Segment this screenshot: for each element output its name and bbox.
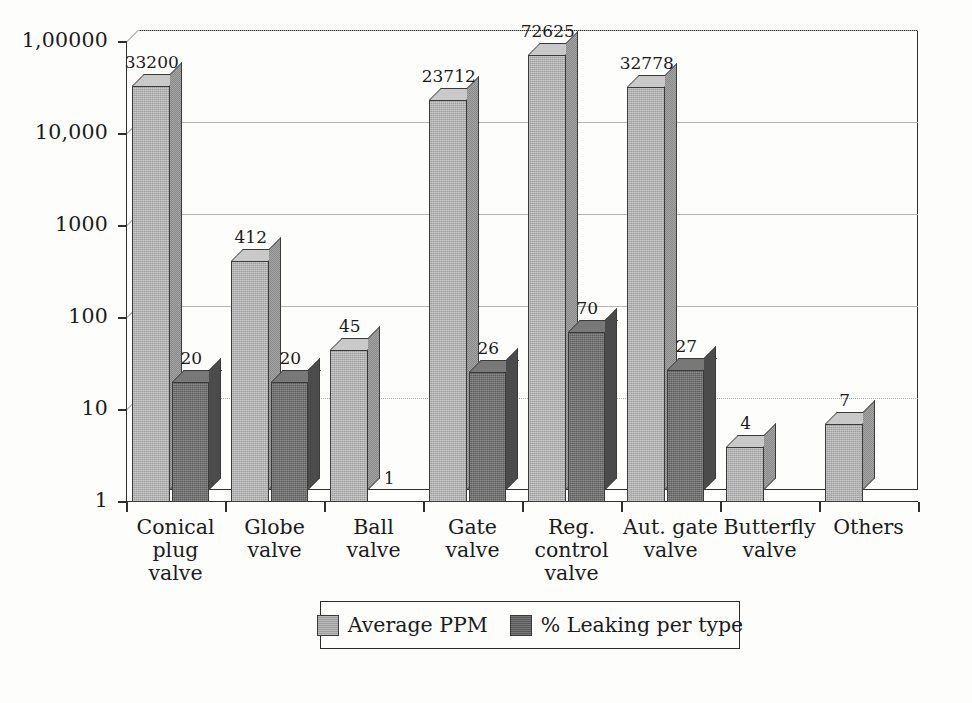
y-axis-tick bbox=[118, 225, 127, 227]
bar-average-ppm bbox=[231, 261, 269, 502]
legend-label: Average PPM bbox=[348, 613, 488, 637]
bar-value-label: 7 bbox=[809, 390, 881, 410]
bar-front-face bbox=[726, 447, 764, 502]
x-axis-category-label: Others bbox=[805, 516, 932, 539]
bar-front-face bbox=[172, 382, 210, 502]
y-axis-tick-label: 1 bbox=[0, 488, 108, 512]
bar-side-face bbox=[209, 358, 221, 490]
x-axis-tick bbox=[819, 502, 821, 512]
y-axis-tick-label: 100 bbox=[0, 304, 108, 328]
bar-front-face bbox=[825, 424, 863, 502]
legend-label: % Leaking per type bbox=[541, 613, 743, 637]
bar-value-label: 27 bbox=[651, 336, 723, 356]
bar-average-ppm bbox=[825, 424, 863, 502]
y-axis-tick-label: 1000 bbox=[0, 212, 108, 236]
y-axis-tick bbox=[118, 133, 127, 135]
bar-percent-leaking bbox=[667, 370, 705, 502]
x-axis-tick bbox=[126, 502, 128, 512]
x-axis-label-line: Others bbox=[805, 516, 932, 539]
bar-value-label: 23712 bbox=[413, 66, 485, 86]
bar-average-ppm bbox=[726, 447, 764, 502]
x-axis-tick bbox=[324, 502, 326, 512]
bar-value-label: 20 bbox=[255, 348, 327, 368]
bar-percent-leaking bbox=[271, 382, 309, 502]
x-axis-tick bbox=[918, 502, 920, 512]
y-axis-tick-label: 1,00000 bbox=[0, 28, 108, 52]
bar-front-face bbox=[271, 382, 309, 502]
bar-front-face bbox=[627, 87, 665, 502]
bar-average-ppm bbox=[132, 86, 170, 502]
bar-value-label: 70 bbox=[552, 298, 624, 318]
legend-item: % Leaking per type bbox=[510, 613, 743, 637]
bar-value-label: 32778 bbox=[611, 53, 683, 73]
bar-value-label: 33200 bbox=[116, 52, 188, 72]
bar-percent-leaking bbox=[568, 332, 606, 502]
bar-side-face bbox=[764, 423, 776, 490]
bar-side-face bbox=[605, 308, 617, 490]
bar-average-ppm bbox=[528, 55, 566, 502]
x-axis-label-line: valve bbox=[706, 539, 833, 562]
bar-front-face bbox=[231, 261, 269, 502]
legend-item: Average PPM bbox=[317, 613, 488, 637]
bar-average-ppm bbox=[429, 100, 467, 502]
y-axis-tick-label: 10 bbox=[0, 396, 108, 420]
x-axis-tick bbox=[225, 502, 227, 512]
bar-value-label: 26 bbox=[453, 338, 525, 358]
bar-percent-leaking bbox=[469, 372, 507, 502]
y-axis-tick bbox=[118, 409, 127, 411]
y-axis-tick bbox=[118, 317, 127, 319]
bar-value-label: 45 bbox=[314, 316, 386, 336]
x-axis-tick bbox=[522, 502, 524, 512]
chart-legend: Average PPM% Leaking per type bbox=[320, 601, 740, 649]
x-axis-tick bbox=[720, 502, 722, 512]
x-axis-label-line: valve bbox=[508, 562, 635, 585]
bar-front-face bbox=[132, 86, 170, 502]
bar-front-face bbox=[568, 332, 606, 502]
dark-gray-swatch bbox=[510, 615, 532, 636]
bar-value-label: 72625 bbox=[512, 21, 584, 41]
bar-percent-leaking bbox=[172, 382, 210, 502]
bar-front-face bbox=[667, 370, 705, 502]
bar-side-face bbox=[506, 348, 518, 490]
bar-value-label: 412 bbox=[215, 227, 287, 247]
bar-side-face bbox=[308, 358, 320, 490]
bar-chart: 1,0000010,0001000100101 3320020412204512… bbox=[0, 0, 972, 703]
x-axis-label-line: valve bbox=[112, 562, 239, 585]
bar-average-ppm bbox=[627, 87, 665, 502]
bar-value-label: 4 bbox=[710, 413, 782, 433]
bar-value-label: 20 bbox=[156, 348, 228, 368]
y-axis-tick bbox=[118, 41, 127, 43]
bar-side-face bbox=[368, 326, 380, 490]
depth-connector bbox=[126, 30, 139, 43]
y-axis-tick-label: 10,000 bbox=[0, 120, 108, 144]
bar-front-face bbox=[469, 372, 507, 502]
light-gray-swatch bbox=[317, 615, 339, 636]
bar-front-face bbox=[429, 100, 467, 502]
bar-value-label: 1 bbox=[354, 468, 426, 488]
bar-front-face bbox=[528, 55, 566, 502]
x-axis-tick bbox=[423, 502, 425, 512]
x-axis-tick bbox=[621, 502, 623, 512]
bar-side-face bbox=[863, 400, 875, 490]
